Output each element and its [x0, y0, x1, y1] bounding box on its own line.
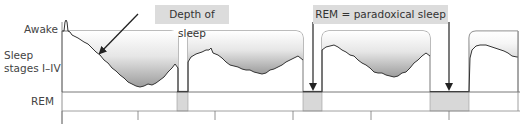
sleep-stages-label-line1: Sleep: [4, 49, 61, 62]
sleep-cycle-1: [62, 20, 178, 92]
rem-block-3: [430, 92, 469, 111]
sleep-stages-label-line2: stages I–IV: [4, 62, 61, 75]
depth-of-sleep-callout: Depth of sleep: [155, 5, 229, 24]
time-ticks: [62, 111, 449, 124]
cycle-4-depth-fill: [469, 31, 518, 58]
cycle-3-depth-fill: [322, 31, 430, 77]
awake-label: Awake: [24, 23, 58, 36]
rem-paradoxical-callout: REM = paradoxical sleep: [313, 5, 448, 24]
rem-blocks: [177, 92, 469, 111]
rem-block-1: [177, 92, 188, 111]
rem-block-2: [303, 92, 322, 111]
rem-label: REM: [31, 95, 54, 108]
sleep-stages-label: Sleep stages I–IV: [4, 49, 61, 75]
sleep-cycle-4: [469, 31, 518, 92]
sleep-cycle-3: [322, 31, 430, 92]
